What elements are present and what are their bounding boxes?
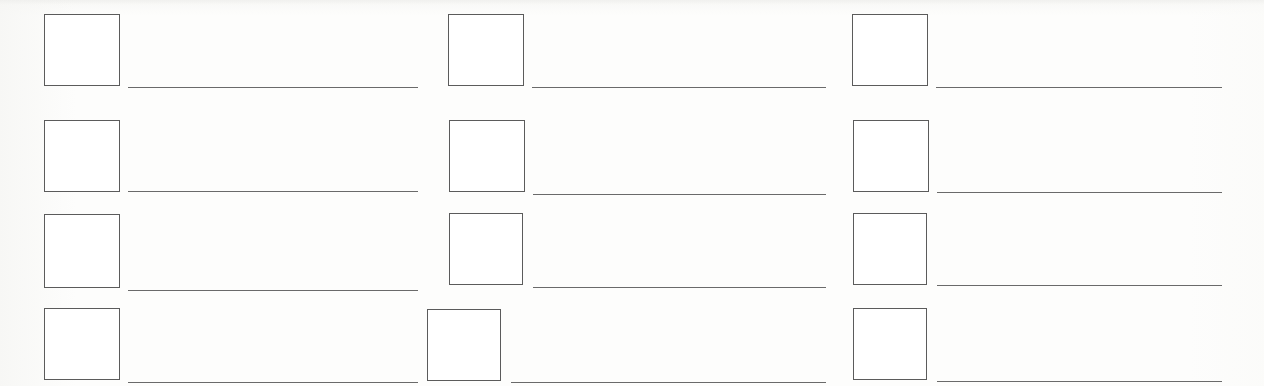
checkbox-square[interactable] [852,14,928,86]
checkbox-square[interactable] [853,213,927,285]
writein-line[interactable] [937,285,1222,286]
form-sheet [0,0,1264,386]
checkbox-square[interactable] [44,14,120,86]
writein-line[interactable] [128,382,418,383]
writein-line[interactable] [128,87,418,88]
writein-line[interactable] [937,381,1222,382]
writein-line[interactable] [128,191,418,192]
writein-line[interactable] [533,194,826,195]
checkbox-square[interactable] [427,309,501,381]
writein-line[interactable] [128,290,418,291]
checkbox-square[interactable] [44,308,120,380]
checkbox-square[interactable] [853,308,927,380]
writein-line[interactable] [937,192,1222,193]
writein-line[interactable] [511,382,826,383]
checkbox-square[interactable] [44,214,120,288]
writein-line[interactable] [936,87,1222,88]
writein-line[interactable] [532,87,826,88]
checkbox-square[interactable] [44,120,120,192]
checkbox-square[interactable] [853,120,929,192]
checkbox-square[interactable] [449,120,525,192]
checkbox-square[interactable] [448,14,524,86]
scan-edge-artifact [0,0,1264,5]
checkbox-square[interactable] [449,213,523,285]
writein-line[interactable] [533,287,826,288]
